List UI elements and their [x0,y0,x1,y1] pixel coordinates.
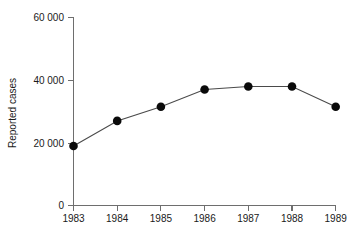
data-point-1986 [200,85,209,94]
line-chart: 60 000 40 000 20 000 0 Reported cases 19… [0,0,353,234]
series-line-reported-cases [74,86,336,146]
y-axis-title: Reported cases [7,78,18,148]
data-point-1984 [113,117,122,126]
y-tick-label-0: 0 [58,200,64,211]
x-tick-label-1989: 1989 [325,213,348,224]
x-tick-label-1988: 1988 [281,213,304,224]
x-tick-label-1985: 1985 [150,213,173,224]
series-markers-group [69,82,340,150]
data-point-1987 [244,82,253,91]
x-tick-label-1983: 1983 [62,213,85,224]
chart-page: 60 000 40 000 20 000 0 Reported cases 19… [0,0,353,234]
y-tick-label-60000: 60 000 [33,12,64,23]
x-tick-label-1984: 1984 [106,213,129,224]
data-point-1988 [288,82,297,91]
y-tick-label-20000: 20 000 [33,138,64,149]
data-point-1989 [331,103,340,112]
x-tick-label-1987: 1987 [237,213,260,224]
x-tick-label-1986: 1986 [193,213,216,224]
data-point-1985 [157,103,166,112]
data-point-1983 [69,142,78,151]
y-tick-label-40000: 40 000 [33,75,64,86]
